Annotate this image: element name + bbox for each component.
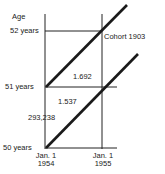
- age-label-51: 51 years: [5, 83, 34, 91]
- value-lower-triangle: 1.537: [58, 98, 77, 106]
- date-label-1954-line2: 1954: [35, 160, 57, 168]
- age-axis-title: Age: [12, 13, 25, 21]
- date-label-1955: Jan. 1 1955: [92, 152, 114, 168]
- date-label-1954: Jan. 1 1954: [35, 152, 57, 168]
- date-label-1955-line2: 1955: [92, 160, 114, 168]
- cohort-label: Cohort 1903: [104, 33, 145, 41]
- age-label-50: 50 years: [3, 144, 32, 152]
- value-upper-triangle: 1.692: [73, 73, 92, 81]
- age-label-52: 52 years: [10, 27, 39, 35]
- value-cohort-count: 293,238: [28, 114, 55, 122]
